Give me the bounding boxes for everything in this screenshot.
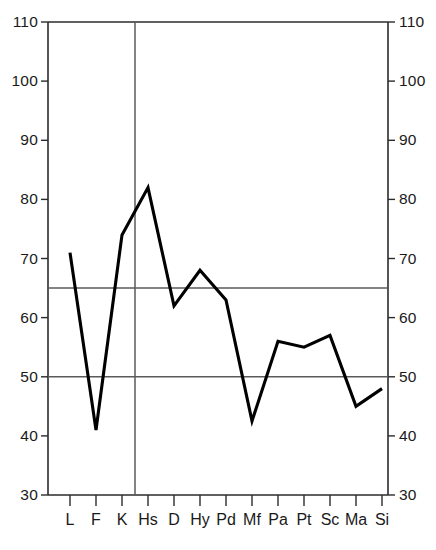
y-axis-left-label-40: 40 (4, 428, 38, 444)
y-axis-left-label-100: 100 (4, 73, 38, 89)
y-axis-right-label-80: 80 (399, 191, 433, 207)
mmpi-profile-chart: 110 100 90 80 70 60 50 40 30 110 100 90 … (0, 0, 436, 550)
y-axis-left-label-90: 90 (4, 132, 38, 148)
x-tick-marks (70, 495, 382, 506)
figure-caption (0, 542, 436, 550)
y-axis-right-label-110: 110 (399, 14, 433, 30)
y-axis-right-label-40: 40 (399, 428, 433, 444)
y-axis-right-label-70: 70 (399, 251, 433, 267)
chart-canvas (0, 0, 436, 550)
y-axis-right-label-60: 60 (399, 310, 433, 326)
y-axis-right-label-50: 50 (399, 369, 433, 385)
plot-frame (48, 22, 388, 495)
profile-polyline (70, 188, 382, 430)
y-axis-left-label-50: 50 (4, 369, 38, 385)
y-axis-left-label-70: 70 (4, 251, 38, 267)
y-axis-right-label-30: 30 (399, 487, 433, 503)
x-axis-label-si: Si (364, 512, 400, 528)
y-axis-left-label-80: 80 (4, 191, 38, 207)
y-axis-right-label-100: 100 (399, 73, 433, 89)
y-axis-left-label-60: 60 (4, 310, 38, 326)
y-axis-left-label-30: 30 (4, 487, 38, 503)
y-axis-left-label-110: 110 (4, 14, 38, 30)
y-axis-right-label-90: 90 (399, 132, 433, 148)
